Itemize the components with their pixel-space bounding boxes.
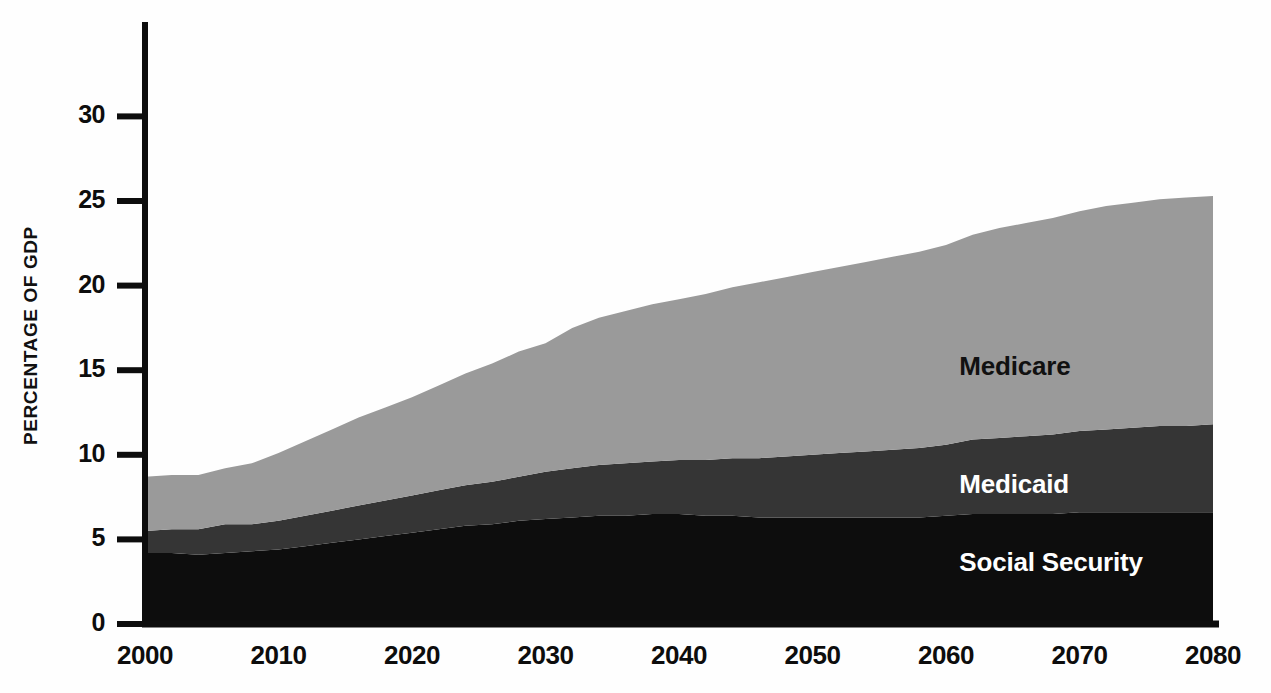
x-tick-label-2000: 2000 xyxy=(100,640,190,671)
x-tick-label-2030: 2030 xyxy=(501,640,591,671)
x-tick-label-2040: 2040 xyxy=(634,640,724,671)
y-tick-label-0: 0 xyxy=(45,608,105,637)
y-tick-label-30: 30 xyxy=(45,100,105,129)
y-tick-label-25: 25 xyxy=(45,185,105,214)
x-tick-label-2020: 2020 xyxy=(367,640,457,671)
y-tick-label-5: 5 xyxy=(45,523,105,552)
chart-container: PERCENTAGE OF GDP 051015202530 200020102… xyxy=(0,0,1271,693)
chart-plot-area xyxy=(0,0,1271,693)
x-tick-label-2050: 2050 xyxy=(768,640,858,671)
y-tick-label-15: 15 xyxy=(45,354,105,383)
x-tick-label-2060: 2060 xyxy=(901,640,991,671)
x-tick-label-2080: 2080 xyxy=(1168,640,1258,671)
x-tick-label-2010: 2010 xyxy=(234,640,324,671)
series-label-medicaid: Medicaid xyxy=(959,469,1069,500)
y-tick-label-20: 20 xyxy=(45,270,105,299)
series-label-social-security: Social Security xyxy=(959,547,1142,578)
y-axis-title: PERCENTAGE OF GDP xyxy=(20,145,42,445)
y-tick-label-10: 10 xyxy=(45,439,105,468)
x-tick-label-2070: 2070 xyxy=(1035,640,1125,671)
series-label-medicare: Medicare xyxy=(959,351,1070,382)
